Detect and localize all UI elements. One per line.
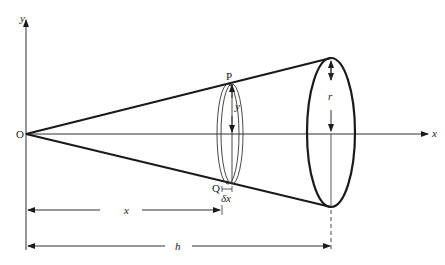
cone-outline [26, 58, 355, 207]
point-q-label: Q [212, 182, 220, 194]
dimension-x: x [28, 204, 222, 216]
slice-width-label: δx [221, 192, 231, 204]
base-radius-label: r [328, 90, 333, 102]
distance-x-label: x [123, 204, 129, 216]
height-label: h [175, 240, 181, 252]
x-axis-label: x [431, 127, 437, 139]
y-axis-label: y [19, 12, 25, 24]
cone-diagram: y x O r y P Q δx x [0, 0, 445, 265]
slice-radius-label: y [234, 100, 240, 112]
point-p-label: P [226, 70, 232, 82]
origin-label: O [16, 128, 24, 140]
dimension-h: h [28, 210, 331, 252]
